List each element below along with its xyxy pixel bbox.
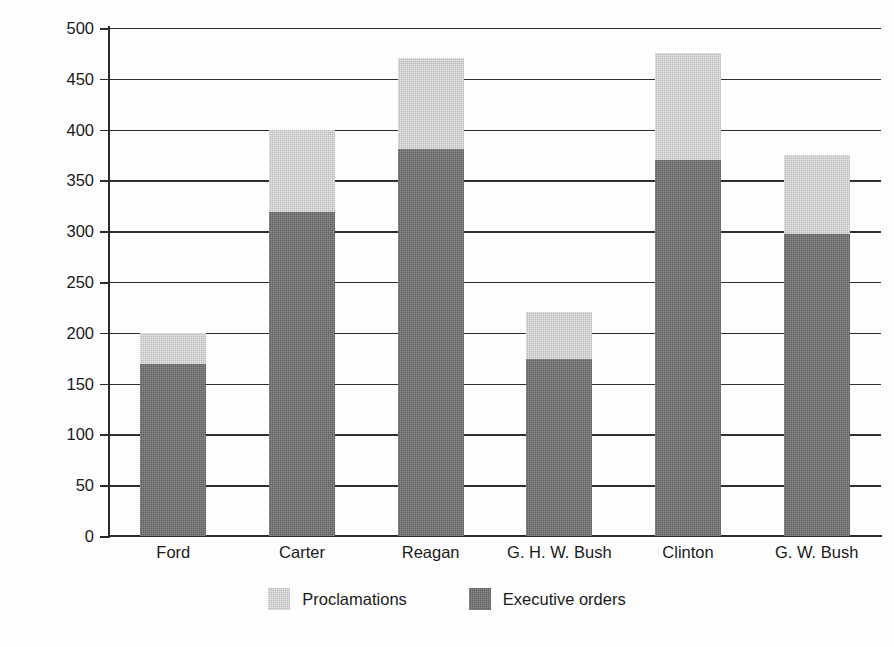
y-axis-tick-mark — [100, 231, 109, 233]
bar-segment-proclamations[interactable] — [526, 312, 592, 359]
y-axis-tick-label: 400 — [30, 120, 94, 139]
y-axis-tick-label: 200 — [30, 323, 94, 342]
bar-segment-proclamations[interactable] — [140, 333, 206, 364]
bar-segment-executive-orders[interactable] — [655, 160, 721, 536]
y-axis-tick-label: 0 — [30, 527, 94, 546]
y-axis-tick-mark — [100, 79, 109, 81]
y-axis-tick-label: 100 — [30, 425, 94, 444]
bar-segment-proclamations[interactable] — [398, 58, 464, 148]
x-axis-category-label: G. W. Bush — [775, 543, 858, 562]
chart-container: Number of orders 50045040035030025020015… — [0, 0, 894, 647]
legend-item[interactable]: Proclamations — [268, 588, 407, 610]
y-axis-tick-label: 350 — [30, 171, 94, 190]
proclamations-swatch — [268, 588, 290, 610]
bar-group[interactable] — [398, 58, 464, 536]
y-axis-tick-mark — [100, 282, 109, 284]
x-axis-category-label: Reagan — [402, 543, 460, 562]
legend-item[interactable]: Executive orders — [469, 588, 626, 610]
bar-segment-proclamations[interactable] — [269, 130, 335, 212]
chart-legend: ProclamationsExecutive orders — [0, 588, 894, 610]
x-axis-category-label: Carter — [279, 543, 325, 562]
executive-orders-swatch — [469, 588, 491, 610]
y-axis-tick-labels: 500450400350300250200150100500 — [22, 28, 94, 536]
bars-layer — [109, 28, 881, 536]
x-axis-category-label: Clinton — [662, 543, 713, 562]
y-axis-tick-label: 150 — [30, 374, 94, 393]
gridline — [109, 536, 881, 537]
x-axis-category-labels: FordCarterReaganG. H. W. BushClintonG. W… — [109, 543, 881, 571]
bar-segment-executive-orders[interactable] — [526, 359, 592, 536]
bar-group[interactable] — [140, 333, 206, 536]
y-axis-tick-label: 500 — [30, 19, 94, 38]
bar-segment-proclamations[interactable] — [784, 155, 850, 234]
y-axis-tick-mark — [100, 384, 109, 386]
bar-group[interactable] — [269, 130, 335, 536]
x-axis-category-label: Ford — [156, 543, 190, 562]
bar-segment-executive-orders[interactable] — [398, 149, 464, 536]
legend-item-label: Executive orders — [503, 590, 626, 609]
bar-segment-executive-orders[interactable] — [269, 212, 335, 536]
y-axis-tick-label: 50 — [30, 476, 94, 495]
bar-segment-proclamations[interactable] — [655, 53, 721, 160]
y-axis-tick-mark — [100, 130, 109, 132]
y-axis-tick-label: 300 — [30, 222, 94, 241]
x-axis-category-label: G. H. W. Bush — [507, 543, 612, 562]
y-axis-tick-mark — [100, 536, 109, 538]
legend-item-label: Proclamations — [302, 590, 407, 609]
bar-group[interactable] — [526, 312, 592, 536]
y-axis-tick-mark — [100, 333, 109, 335]
y-axis-tick-label: 450 — [30, 69, 94, 88]
bar-segment-executive-orders[interactable] — [784, 234, 850, 536]
y-axis-tick-label: 250 — [30, 273, 94, 292]
y-axis-tick-mark — [100, 434, 109, 436]
y-axis-tick-mark — [100, 28, 109, 30]
bar-group[interactable] — [784, 155, 850, 536]
y-axis-tick-mark — [100, 485, 109, 487]
bar-group[interactable] — [655, 53, 721, 536]
bar-segment-executive-orders[interactable] — [140, 364, 206, 536]
y-axis-tick-mark — [100, 180, 109, 182]
